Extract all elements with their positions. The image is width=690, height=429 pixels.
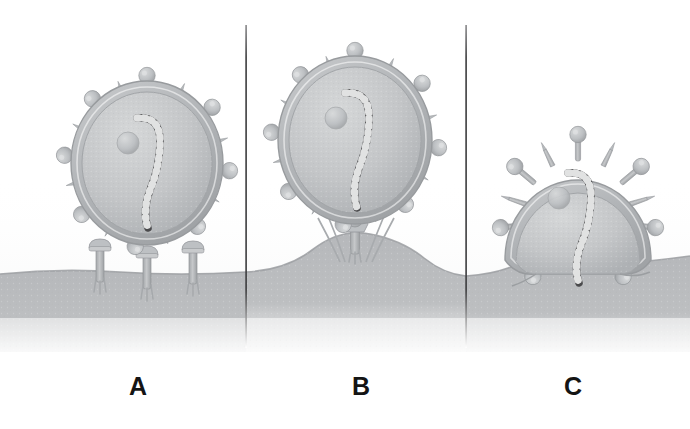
panel-divider-1 — [245, 25, 247, 348]
panel-label-a: A — [118, 372, 158, 401]
virion-a-matrix-bleb — [117, 132, 139, 154]
panel-label-b: B — [341, 372, 381, 401]
panel-label-c: C — [553, 372, 593, 401]
illustration-canvas — [0, 0, 690, 429]
panel-divider-2 — [465, 25, 467, 348]
virion-c-matrix-bleb — [548, 187, 570, 209]
virus-cell-interaction-figure: A B C — [0, 0, 690, 429]
virion-b-matrix-bleb — [325, 107, 347, 129]
